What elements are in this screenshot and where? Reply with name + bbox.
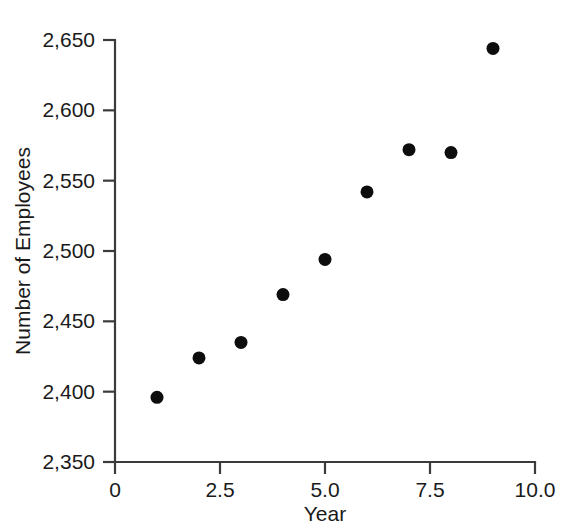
- y-tick-label: 2,600: [42, 98, 95, 121]
- y-tick-label: 2,450: [42, 309, 95, 332]
- y-axis-title: Number of Employees: [11, 147, 34, 355]
- chart-canvas: 2,3502,4002,4502,5002,5502,6002,650 02.5…: [0, 0, 572, 531]
- data-point: [193, 351, 206, 364]
- x-tick-label: 2.5: [205, 478, 234, 501]
- data-point: [361, 185, 374, 198]
- y-tick-label: 2,650: [42, 28, 95, 51]
- x-tick-label: 7.5: [415, 478, 444, 501]
- data-point: [319, 253, 332, 266]
- x-tick-label: 0: [109, 478, 121, 501]
- y-tick-label: 2,350: [42, 450, 95, 473]
- x-tick-label: 5.0: [310, 478, 339, 501]
- data-point: [445, 146, 458, 159]
- scatter-chart: 2,3502,4002,4502,5002,5502,6002,650 02.5…: [0, 0, 572, 531]
- y-tick-label: 2,500: [42, 239, 95, 262]
- y-tick-label: 2,400: [42, 380, 95, 403]
- data-point: [235, 336, 248, 349]
- data-point: [487, 42, 500, 55]
- x-axis-title: Year: [304, 502, 346, 525]
- x-tick-label: 10.0: [515, 478, 556, 501]
- y-tick-label: 2,550: [42, 169, 95, 192]
- data-point: [403, 143, 416, 156]
- data-point: [151, 391, 164, 404]
- data-point: [277, 288, 290, 301]
